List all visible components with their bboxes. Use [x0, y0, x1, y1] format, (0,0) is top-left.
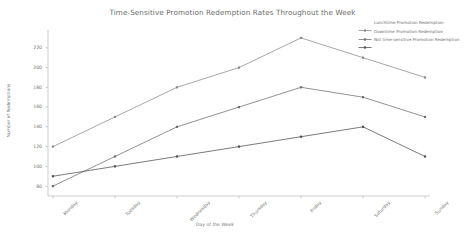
- legend-item[interactable]: Lunchtime Promotion Redemption: [358, 19, 464, 26]
- data-point-marker: [52, 185, 54, 187]
- series-line: [53, 127, 425, 176]
- data-point-marker: [238, 146, 240, 148]
- data-series-group: [52, 37, 426, 187]
- data-series: [52, 37, 426, 148]
- y-tick-label: 180: [20, 85, 42, 90]
- data-point-marker: [424, 155, 426, 157]
- data-point-marker: [238, 106, 240, 108]
- data-point-marker: [300, 136, 302, 138]
- legend-label: Lunchtime Promotion Redemption: [374, 19, 444, 26]
- y-tick-marks: [46, 48, 49, 186]
- y-tick-label: 140: [20, 124, 42, 129]
- data-series: [52, 86, 426, 187]
- data-point-marker: [52, 175, 54, 177]
- data-point-marker: [114, 165, 116, 167]
- x-axis-label: Day of the Week: [0, 222, 430, 227]
- y-tick-label: 100: [20, 164, 42, 169]
- legend-item[interactable]: Downtime Promotion Redemption: [358, 28, 464, 35]
- data-point-marker: [114, 155, 116, 157]
- y-axis-label: Number of Redemptions: [6, 81, 11, 141]
- series-line: [53, 87, 425, 186]
- data-point-marker: [176, 86, 178, 88]
- y-tick-label: 120: [20, 144, 42, 149]
- x-tick-marks: [53, 196, 425, 199]
- y-tick-label: 220: [20, 45, 42, 50]
- y-tick-label: 160: [20, 104, 42, 109]
- y-tick-label: 200: [20, 65, 42, 70]
- data-point-marker: [176, 155, 178, 157]
- data-series: [52, 126, 426, 178]
- legend-label: Downtime Promotion Redemption: [374, 28, 443, 35]
- chart-legend: Lunchtime Promotion RedemptionDowntime P…: [358, 19, 464, 45]
- data-point-marker: [362, 126, 364, 128]
- data-point-marker: [114, 116, 116, 118]
- data-point-marker: [362, 96, 364, 98]
- data-point-marker: [52, 146, 54, 148]
- series-line: [53, 38, 425, 147]
- data-point-marker: [424, 76, 426, 78]
- legend-line-marker-icon: [358, 36, 372, 43]
- data-point-marker: [362, 57, 364, 59]
- data-point-marker: [300, 86, 302, 88]
- data-point-marker: [176, 126, 178, 128]
- data-point-marker: [238, 66, 240, 68]
- legend-line-marker-icon: [358, 28, 372, 35]
- chart-figure: Time-Sensitive Promotion Redemption Rate…: [0, 0, 465, 239]
- data-point-marker: [300, 37, 302, 39]
- legend-line-marker-icon: [358, 19, 372, 26]
- data-point-marker: [424, 116, 426, 118]
- y-tick-label: 80: [20, 184, 42, 189]
- legend-item[interactable]: Not time-sensitive Promotion Redemption: [358, 36, 464, 43]
- axes: [48, 30, 430, 196]
- legend-label: Not time-sensitive Promotion Redemption: [374, 36, 460, 43]
